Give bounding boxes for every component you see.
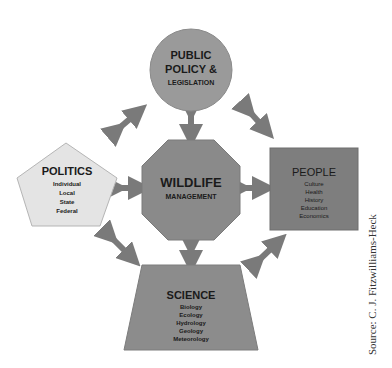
node-people-title: PEOPLE: [292, 166, 336, 178]
node-people: PEOPLE Culture Health History Education …: [270, 148, 358, 230]
node-science-item: Hydrology: [176, 320, 206, 326]
node-people-item: Education: [301, 205, 328, 211]
node-politics-title: POLITICS: [42, 165, 93, 177]
node-politics: POLITICS Individual Local State Federal: [17, 143, 117, 226]
node-science-item: Biology: [180, 304, 203, 310]
node-wildlife-management: WILDLIFE MANAGEMENT: [142, 140, 240, 240]
node-science-item: Geology: [179, 328, 204, 334]
arrow-diag-topleft: [117, 112, 138, 130]
node-wildlife-title: WILDLIFE: [160, 175, 222, 190]
node-people-item: Health: [305, 189, 322, 195]
node-people-item: Culture: [304, 181, 324, 187]
node-science-title: SCIENCE: [167, 289, 216, 301]
node-politics-item: Federal: [56, 208, 78, 214]
node-public-policy-line2: POLICY &: [165, 63, 217, 75]
node-science-item: Ecology: [179, 312, 203, 318]
node-science: SCIENCE Biology Ecology Hydrology Geolog…: [124, 265, 258, 350]
source-credit: Source: C. J. Fitzwilliams-Heck: [366, 214, 378, 355]
node-public-policy-line1: PUBLIC: [171, 49, 212, 61]
arrow-diag-topright: [248, 110, 266, 130]
node-people-item: Economics: [299, 213, 328, 219]
node-public-policy-line3: LEGISLATION: [168, 79, 215, 86]
node-wildlife-subtitle: MANAGEMENT: [166, 193, 218, 200]
node-politics-item: Individual: [53, 181, 81, 187]
node-public-policy: PUBLIC POLICY & LEGISLATION: [150, 29, 232, 111]
arrow-diag-bottomright: [257, 242, 278, 262]
node-people-item: History: [305, 197, 324, 203]
node-politics-item: Local: [59, 190, 75, 196]
node-politics-item: State: [60, 199, 75, 205]
wildlife-management-diagram: PUBLIC POLICY & LEGISLATION WILDLIFE MAN…: [0, 0, 392, 368]
arrow-diag-bottomleft: [110, 236, 132, 258]
node-science-item: Meteorology: [173, 336, 209, 342]
